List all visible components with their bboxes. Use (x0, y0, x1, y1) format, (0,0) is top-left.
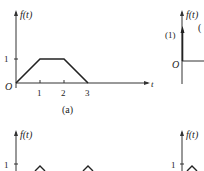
y-axis-arrow-icon (180, 10, 184, 16)
y-axis-label: f(t) (20, 9, 33, 21)
impulse-arrow-icon (181, 26, 185, 33)
partial-label: ( (198, 22, 202, 34)
y-axis-label: f(t) (20, 129, 33, 141)
panel-d: f(t) 1 (171, 129, 199, 171)
panel-c: f(t) 1 (4, 129, 93, 171)
triangle-peak-2 (83, 166, 93, 171)
y-axis-arrow-icon (14, 10, 18, 16)
y-tick-label: 1 (4, 54, 9, 64)
panel-a: f(t) 1 O 1 2 3 t (a) (4, 9, 154, 116)
origin-label: O (172, 59, 179, 70)
signal-figure: f(t) 1 O 1 2 3 t (a) f(t) ( (1) O f(t) 1… (0, 0, 204, 171)
y-axis-arrow-icon (180, 130, 184, 136)
caption-a: (a) (62, 104, 73, 116)
impulse-label: (1) (165, 30, 176, 40)
x-axis-arrow-icon (144, 81, 150, 85)
y-axis-label: f(t) (186, 9, 199, 21)
trapezoid-signal (16, 59, 88, 83)
panel-b: f(t) ( (1) O (165, 9, 204, 84)
y-tick-label: 1 (171, 160, 176, 170)
origin-label: O (5, 81, 12, 92)
y-tick-label: 1 (4, 160, 9, 170)
x-tick-label-1: 1 (37, 88, 42, 98)
triangle-peak (187, 166, 197, 171)
y-axis-label: f(t) (186, 129, 199, 141)
x-axis-label: t (151, 79, 154, 89)
x-tick-label-3: 3 (85, 88, 90, 98)
triangle-peak-1 (35, 166, 45, 171)
x-tick-label-2: 2 (61, 88, 66, 98)
y-axis-arrow-icon (14, 130, 18, 136)
